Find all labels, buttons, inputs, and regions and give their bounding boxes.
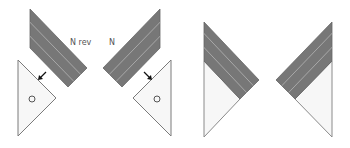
triangle-right: [133, 60, 171, 136]
label-n-rev: N rev: [70, 38, 92, 47]
arrow-down-left-icon: [38, 72, 46, 80]
arrow-down-right-icon: [144, 72, 152, 80]
label-n: N: [109, 38, 115, 47]
composite-shape-left: [195, 22, 265, 137]
diagram-canvas: N rev N: [0, 0, 350, 148]
composite-shape-right: [270, 22, 341, 137]
triangle-left: [18, 60, 56, 136]
